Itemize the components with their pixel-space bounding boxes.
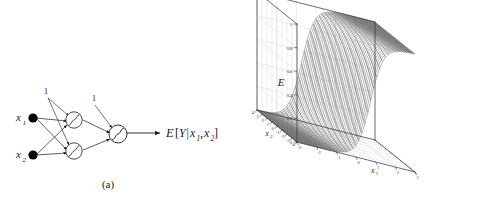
output-expression: E [ Y | x 1 , x 2 ]	[165, 126, 218, 143]
svg-text:1: 1	[290, 22, 292, 27]
x2-axis-label: x	[264, 129, 269, 138]
network-diagram-svg: 1 1 x 1 x 2 E [ Y | x 1 , x 2 ]	[0, 0, 245, 205]
bias-label-hidden: 1	[44, 87, 48, 96]
input-label-x2-base: x	[15, 148, 21, 160]
hidden-unit-2	[66, 143, 82, 159]
output-expression-comma: ,	[200, 126, 203, 140]
svg-text:3: 3	[416, 175, 418, 180]
output-expression-script-e: E	[165, 126, 174, 140]
svg-text:-1: -1	[337, 155, 340, 160]
figure-container: 1 1 x 1 x 2 E [ Y | x 1 , x 2 ]	[0, 0, 495, 205]
input-label-x1-base: x	[15, 111, 21, 123]
input-label-x2-sub: 2	[23, 156, 27, 164]
caption-a: (a)	[78, 178, 138, 190]
svg-text:4: 4	[252, 110, 254, 115]
svg-text:0.6: 0.6	[287, 69, 292, 74]
output-expression-x1: x	[189, 126, 196, 140]
svg-text:-2: -2	[317, 150, 320, 155]
svg-text:1: 1	[267, 122, 269, 127]
svg-text:0.8: 0.8	[287, 46, 292, 51]
svg-text:-2: -2	[281, 134, 284, 139]
output-bias-connection	[95, 105, 112, 128]
svg-text:-1: -1	[276, 130, 279, 135]
svg-text:2: 2	[262, 118, 264, 123]
x2-axis-label-sub: 2	[270, 134, 273, 139]
output-expression-x2: x	[203, 126, 210, 140]
z-axis-label: E	[277, 76, 285, 88]
svg-text:0: 0	[272, 126, 274, 131]
svg-text:0.2: 0.2	[287, 116, 292, 121]
svg-text:-4: -4	[291, 142, 294, 147]
svg-text:0: 0	[357, 160, 359, 165]
panel-a-network-diagram: 1 1 x 1 x 2 E [ Y | x 1 , x 2 ]	[0, 0, 245, 205]
input-hidden-connections	[36, 118, 67, 155]
x1-axis-label: x	[370, 166, 375, 175]
panel-b-surface-plot: 00.20.40.60.81-3-2-10123-4-3-2-101234 Ex…	[245, 0, 495, 205]
svg-text:2: 2	[397, 170, 399, 175]
svg-text:-3: -3	[298, 145, 301, 150]
input-node-x1	[28, 113, 37, 122]
output-expression-bar: |	[187, 126, 189, 140]
input-label-x2: x 2	[15, 148, 27, 164]
output-unit	[109, 125, 127, 143]
svg-text:1: 1	[377, 165, 379, 170]
output-expression-bracket-close: ]	[214, 126, 218, 140]
input-label-x1-sub: 1	[23, 119, 27, 127]
hidden-unit-1	[66, 112, 82, 128]
bias-label-output: 1	[92, 94, 96, 103]
surface-plot-svg: 00.20.40.60.81-3-2-10123-4-3-2-101234 Ex…	[245, 0, 495, 205]
svg-text:3: 3	[257, 114, 259, 119]
svg-text:-3: -3	[286, 138, 289, 143]
svg-text:0.4: 0.4	[287, 93, 292, 98]
hidden-output-connections	[83, 120, 110, 150]
input-node-x2	[28, 150, 37, 159]
input-label-x1: x 1	[15, 111, 26, 127]
x1-axis-label-sub: 1	[376, 171, 379, 176]
